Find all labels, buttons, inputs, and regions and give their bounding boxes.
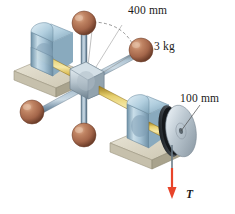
radius-label: 400 mm [128, 4, 167, 16]
sphere-left [20, 100, 44, 124]
tension-arrow [168, 168, 177, 199]
mass-label: 3 kg [154, 40, 175, 52]
physics-diagram-figure: 400 mm 3 kg 100 mm T [0, 0, 235, 214]
sphere-bottom [72, 123, 96, 147]
sphere-right [129, 38, 153, 62]
diagram-canvas [0, 0, 235, 214]
pulley-radius-label: 100 mm [180, 92, 219, 104]
sphere-top [72, 11, 96, 35]
tension-label: T [186, 188, 193, 200]
